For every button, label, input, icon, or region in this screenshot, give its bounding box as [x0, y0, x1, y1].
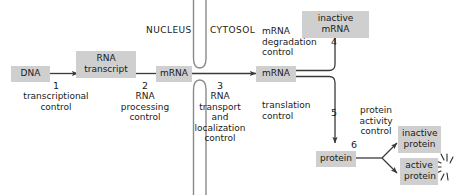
step-label-2: RNA processing control: [111, 91, 179, 123]
compartment-label-nucleus: NUCLEUS: [146, 25, 192, 35]
step-number-2: 2: [137, 80, 153, 91]
step-number-6: 6: [346, 139, 362, 150]
step-label-5: translation control: [262, 100, 324, 121]
arrow-protein-to-inactive-protein: [382, 143, 397, 158]
node-mrna-cytosolic: mRNA: [256, 66, 296, 82]
node-dna: DNA: [11, 66, 50, 82]
nuclear-envelope-upper-segment: [194, 0, 207, 68]
node-rna-transcript: RNA transcript: [76, 51, 136, 78]
step-number-5: 5: [326, 107, 342, 118]
node-mrna-nuclear: mRNA: [156, 66, 192, 82]
node-protein: protein: [316, 151, 356, 167]
gene-expression-control-diagram: NUCLEUS CYTOSOL DNA RNA transcript mRNA …: [0, 0, 459, 195]
step-label-1: transcriptional control: [13, 91, 99, 112]
step-label-4: mRNA degradation control: [262, 26, 322, 58]
step-label-6: protein activity control: [350, 105, 402, 137]
node-inactive-protein: inactive protein: [398, 126, 441, 153]
step-number-1: 1: [48, 80, 64, 91]
arrow-protein-to-active-protein: [382, 158, 397, 173]
step-number-3: 3: [212, 80, 228, 91]
step-label-3: RNA transport and localization control: [186, 91, 254, 144]
node-active-protein: active protein: [400, 158, 438, 185]
step-number-4: 4: [326, 36, 342, 47]
compartment-label-cytosol: CYTOSOL: [210, 25, 255, 35]
